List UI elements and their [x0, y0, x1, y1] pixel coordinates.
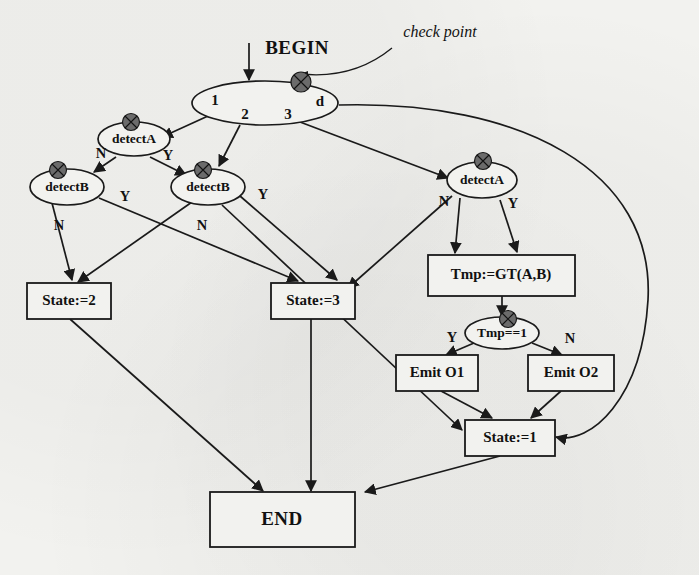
- detect-a-right-label: detectA: [460, 172, 504, 187]
- flowchart-svg: BEGIN check point 1 2 3 d detectA detect…: [0, 0, 699, 575]
- detect-b-mid-label: detectB: [186, 179, 229, 194]
- edge-emit-o2-to-state-1: [531, 391, 561, 418]
- dispatch-branch-2-label: 2: [241, 106, 249, 122]
- dispatch-branch-3-label: 3: [284, 106, 292, 122]
- emit-o1-label: Emit O1: [410, 364, 465, 380]
- edge-label-tmp-test-no: N: [565, 330, 576, 346]
- checkpoint-annotation: check point: [403, 23, 477, 41]
- edge-detect-b-mid-no-to-state-2: [78, 202, 192, 282]
- checkpoint-detect-b-left-icon: [50, 162, 67, 179]
- edge-detect-a-right-no-to-tmp-assign: [455, 198, 460, 253]
- state-3-label: State:=3: [286, 292, 340, 308]
- edge-state-2-to-end: [70, 319, 263, 491]
- edge-emit-o1-to-state-1: [441, 391, 492, 418]
- edge-label-detect-b-left-yes: Y: [120, 188, 131, 204]
- edge-label-tmp-test-yes: Y: [447, 329, 458, 345]
- detect-a-left-label: detectA: [112, 131, 156, 146]
- tmp-assign-label: Tmp:=GT(A,B): [451, 266, 552, 283]
- dispatch-branch-1-label: 1: [211, 92, 219, 108]
- edge-label-detect-b-mid-yes: Y: [258, 186, 269, 202]
- end-label: END: [261, 508, 303, 529]
- edge-detect-b-left-no-to-state-2: [52, 203, 72, 280]
- edge-label-detect-a-right-no: N: [439, 193, 450, 209]
- state-2-label: State:=2: [42, 292, 96, 308]
- edge-detect-b-left-yes-to-state-3: [99, 198, 298, 281]
- edge-dispatch-3-to-detect-a-right: [300, 122, 448, 178]
- edge-label-detect-a-left-yes: Y: [163, 147, 174, 163]
- begin-label: BEGIN: [265, 37, 329, 58]
- checkpoint-dispatch-icon: [291, 72, 311, 92]
- emit-o2-label: Emit O2: [544, 364, 599, 380]
- edge-label-detect-b-mid-no: N: [197, 217, 208, 233]
- checkpoint-detect-a-left-icon: [123, 114, 140, 131]
- edge-state-1-to-end: [365, 456, 500, 492]
- state-1-label: State:=1: [483, 429, 537, 445]
- detect-b-left-label: detectB: [45, 179, 88, 194]
- edge-tmp-test-no-to-emit-o2: [532, 343, 562, 355]
- checkpoint-detect-a-right-icon: [475, 153, 492, 170]
- checkpoint-detect-b-mid-icon: [195, 162, 212, 179]
- edge-dispatch-2-to-detect-b-mid: [219, 125, 240, 166]
- dispatch-branch-d-label: d: [316, 93, 325, 109]
- edge-label-detect-a-right-yes: Y: [508, 195, 519, 211]
- edge-label-detect-a-left-no: N: [96, 145, 107, 161]
- tmp-test-label: Tmp==1: [477, 325, 527, 340]
- edge-label-detect-b-left-no: N: [54, 217, 65, 233]
- flowchart-canvas: BEGIN check point 1 2 3 d detectA detect…: [0, 0, 699, 575]
